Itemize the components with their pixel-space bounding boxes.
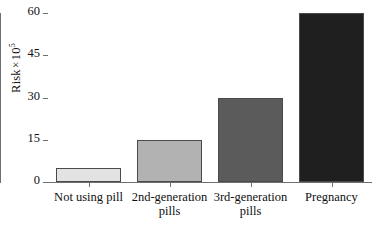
category-label: 2nd-generation pills [126, 190, 213, 218]
multiplication-sign: × [9, 60, 23, 69]
y-tick: 60 [0, 13, 48, 14]
y-tick-mark [43, 55, 48, 56]
y-tick-mark [43, 182, 48, 183]
y-tick: 30 [0, 98, 48, 99]
bar [56, 168, 121, 182]
y-tick-label: 30 [28, 89, 41, 104]
y-axis-label-mantissa: 10 [9, 47, 23, 60]
bar [218, 98, 283, 183]
category-label: Not using pill [45, 190, 132, 204]
category-label: Pregnancy [288, 190, 375, 204]
bar-chart: Risk×105 015304560 Not using pill2nd-gen… [0, 0, 380, 225]
x-tick-mark [89, 182, 90, 187]
y-tick-label: 15 [28, 131, 41, 146]
y-axis-label-text: Risk [9, 69, 23, 93]
y-tick-mark [43, 98, 48, 99]
bar [299, 13, 364, 182]
category-label: 3rd-generation pills [207, 190, 294, 218]
x-tick-mark [251, 182, 252, 187]
y-tick: 0 [0, 182, 48, 183]
y-tick: 45 [0, 55, 48, 56]
y-tick-label: 60 [28, 4, 41, 19]
y-tick: 15 [0, 140, 48, 141]
y-axis-label-exponent: 5 [8, 43, 17, 47]
y-tick-label: 0 [34, 173, 40, 188]
y-tick-mark [43, 140, 48, 141]
x-tick-mark [332, 182, 333, 187]
y-tick-mark [43, 13, 48, 14]
bar [137, 140, 202, 182]
y-tick-label: 45 [28, 46, 41, 61]
y-axis-label: Risk×105 [9, 13, 25, 123]
x-tick-mark [170, 182, 171, 187]
x-axis-line [48, 182, 372, 183]
